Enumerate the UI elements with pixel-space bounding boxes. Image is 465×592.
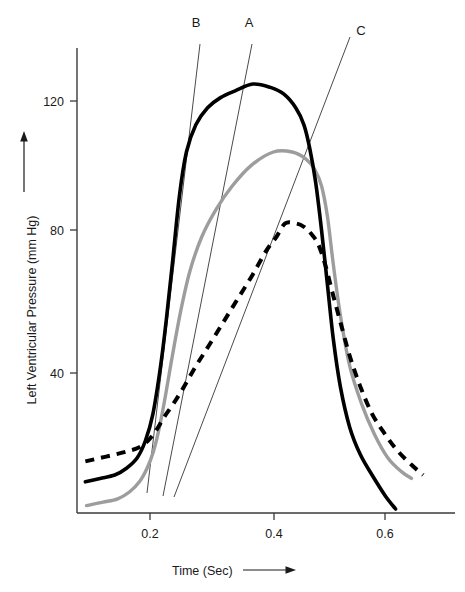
chart-canvas: 120 80 40 0.2 0.4 0.6 Left Ventricular P…: [0, 0, 465, 592]
curves-group: [85, 84, 423, 509]
gray-solid-pressure-curve: [87, 151, 412, 506]
x-tick-label-0.6: 0.6: [376, 527, 393, 541]
y-axis-title: Left Ventricular Pressure (mm Hg): [25, 216, 39, 405]
tangent-labels-group: B A C: [192, 15, 366, 38]
x-ticks-group: 0.2 0.4 0.6: [141, 513, 393, 541]
chart-page: 120 80 40 0.2 0.4 0.6 Left Ventricular P…: [0, 0, 465, 592]
tangent-line-A: [163, 44, 252, 496]
x-tick-label-0.4: 0.4: [265, 527, 282, 541]
axes-group: [77, 48, 455, 513]
black-dashed-pressure-curve: [85, 222, 423, 475]
tangent-label-B: B: [192, 15, 201, 30]
x-tick-label-0.2: 0.2: [141, 527, 158, 541]
x-axis-title-group: Time (Sec): [172, 564, 296, 578]
tangent-label-C: C: [356, 23, 365, 38]
black-solid-pressure-curve: [85, 84, 395, 509]
y-axis-title-group: Left Ventricular Pressure (mm Hg): [20, 131, 39, 404]
y-tick-label-80: 80: [50, 224, 64, 238]
x-axis-direction-arrow: [243, 566, 296, 573]
tangent-lines-group: [147, 37, 350, 497]
tangent-label-A: A: [245, 15, 254, 30]
y-tick-label-40: 40: [50, 367, 64, 381]
tangent-line-C: [174, 37, 350, 497]
x-axis-title: Time (Sec): [172, 564, 233, 578]
y-ticks-group: 120 80 40: [43, 95, 77, 381]
y-tick-label-120: 120: [43, 95, 64, 109]
y-axis-direction-arrow: [20, 131, 28, 192]
